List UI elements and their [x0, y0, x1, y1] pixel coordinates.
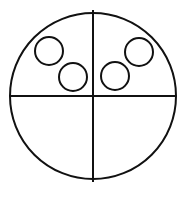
- quadrant-circle-diagram: [0, 0, 189, 199]
- background: [0, 0, 189, 199]
